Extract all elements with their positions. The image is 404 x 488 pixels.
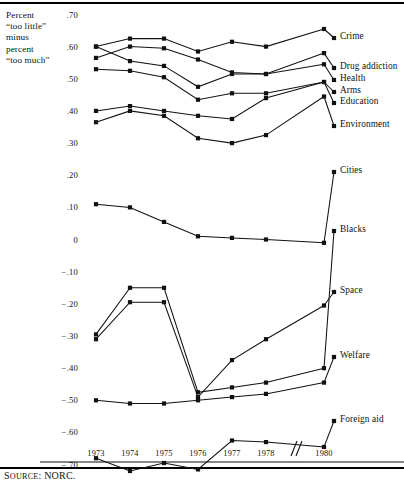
- series-line-environment: [96, 97, 324, 144]
- data-point: [94, 337, 98, 341]
- series-label-education: Education: [340, 96, 379, 106]
- data-point: [196, 234, 200, 238]
- data-point: [196, 114, 200, 118]
- data-point: [128, 45, 132, 49]
- data-point: [230, 117, 234, 121]
- data-point: [128, 69, 132, 73]
- series-label-environment: Environment: [340, 119, 390, 129]
- data-point: [162, 401, 166, 405]
- data-point: [94, 202, 98, 206]
- data-point: [230, 72, 234, 76]
- data-point: [128, 205, 132, 209]
- data-point: [128, 401, 132, 405]
- data-point: [162, 286, 166, 290]
- data-point: [264, 237, 268, 241]
- data-point: [128, 109, 132, 113]
- data-point: [162, 46, 166, 50]
- series-label-welfare: Welfare: [340, 350, 370, 360]
- data-point: [128, 286, 132, 290]
- series-line-foreign-aid: [96, 441, 324, 472]
- axis-break-slash-1: [296, 441, 302, 456]
- data-point: [162, 75, 166, 79]
- data-point: [264, 381, 268, 385]
- data-point: [230, 91, 234, 95]
- data-point: [264, 72, 268, 76]
- data-point: [162, 300, 166, 304]
- data-point: [196, 85, 200, 89]
- data-point: [128, 59, 132, 63]
- series-label-marker: [332, 170, 336, 174]
- series-label-cities: Cities: [340, 165, 362, 175]
- data-point: [230, 358, 234, 362]
- series-line-space: [96, 302, 324, 397]
- data-point: [128, 104, 132, 108]
- data-point: [196, 398, 200, 402]
- data-point: [230, 236, 234, 240]
- data-point: [264, 96, 268, 100]
- data-point: [264, 337, 268, 341]
- series-label-marker: [332, 90, 336, 94]
- series-label-foreign-aid: Foreign aid: [340, 414, 384, 424]
- series-label-blacks: Blacks: [340, 224, 366, 234]
- data-point: [196, 467, 200, 471]
- data-point: [128, 300, 132, 304]
- series-label-marker: [332, 355, 336, 359]
- series-label-marker: [332, 78, 336, 82]
- series-label-marker: [332, 66, 336, 70]
- data-point: [94, 398, 98, 402]
- data-point: [230, 40, 234, 44]
- series-line-welfare: [96, 383, 324, 404]
- series-line-arms: [96, 69, 324, 100]
- data-point: [94, 67, 98, 71]
- data-point: [94, 45, 98, 49]
- source-rest: : NORC.: [39, 470, 76, 481]
- data-point: [94, 120, 98, 124]
- series-line-cities: [96, 204, 324, 243]
- series-label-marker: [332, 124, 336, 128]
- chart-figure: Percent “too little” minus percent “too …: [0, 0, 404, 488]
- data-point: [196, 49, 200, 53]
- series-label-drug-addiction: Drug addiction: [340, 61, 397, 71]
- data-point: [264, 440, 268, 444]
- data-point: [94, 109, 98, 113]
- data-point: [264, 45, 268, 49]
- data-point: [162, 109, 166, 113]
- axis-break-slash-0: [291, 441, 297, 456]
- data-point: [264, 91, 268, 95]
- series-label-health: Health: [340, 73, 365, 83]
- series-label-marker: [332, 290, 336, 294]
- data-point: [162, 37, 166, 41]
- data-point: [94, 56, 98, 60]
- data-point: [162, 114, 166, 118]
- source-smallcaps: OURCE: [10, 472, 39, 481]
- series-label-marker: [332, 101, 336, 105]
- series-line-health: [96, 47, 324, 87]
- data-point: [94, 332, 98, 336]
- data-point: [230, 385, 234, 389]
- series-label-crime: Crime: [340, 31, 364, 41]
- data-point: [230, 141, 234, 145]
- data-point: [162, 220, 166, 224]
- series-label-space: Space: [340, 285, 363, 295]
- data-point: [196, 136, 200, 140]
- data-point: [94, 456, 98, 460]
- series-label-arms: Arms: [340, 85, 361, 95]
- series-label-marker: [332, 229, 336, 233]
- data-point: [230, 438, 234, 442]
- data-point: [128, 469, 132, 473]
- data-point: [196, 57, 200, 61]
- source-note: SOURCE: NORC.: [4, 470, 75, 481]
- data-point: [264, 392, 268, 396]
- data-point: [264, 133, 268, 137]
- data-point: [128, 37, 132, 41]
- series-label-connector: [324, 421, 334, 447]
- data-point: [162, 64, 166, 68]
- series-label-marker: [332, 36, 336, 40]
- data-point: [230, 395, 234, 399]
- data-point: [196, 98, 200, 102]
- series-line-education: [96, 82, 324, 119]
- series-label-marker: [332, 419, 336, 423]
